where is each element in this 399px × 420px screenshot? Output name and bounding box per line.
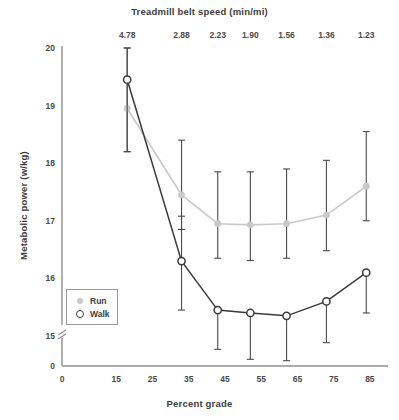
metabolic-power-chart: Treadmill belt speed (min/mi) 4.782.882.… [0, 0, 399, 420]
legend-item-run: Run [73, 294, 110, 307]
data-point [247, 309, 254, 316]
data-point [178, 191, 185, 198]
data-point [247, 221, 254, 228]
data-point [124, 76, 131, 83]
chart-legend: Run Walk [66, 289, 118, 325]
legend-label-run: Run [90, 296, 107, 306]
series-walk [124, 48, 370, 361]
legend-item-walk: Walk [73, 307, 110, 320]
data-point [214, 306, 221, 313]
run-marker-icon [73, 298, 86, 304]
x-axis-title: Percent grade [0, 398, 399, 409]
series-run [124, 48, 370, 261]
data-point [323, 212, 330, 219]
data-point [323, 298, 330, 305]
plot-area [0, 0, 399, 420]
data-point [283, 220, 290, 227]
data-point [178, 258, 185, 265]
legend-label-walk: Walk [90, 309, 110, 319]
data-point [283, 312, 290, 319]
series-line [127, 108, 366, 224]
data-point [214, 220, 221, 227]
series-line [127, 80, 366, 316]
walk-marker-icon [73, 310, 86, 318]
data-point [363, 269, 370, 276]
data-point [363, 183, 370, 190]
y-axis-title: Metabolic power (w/kg) [18, 121, 29, 291]
